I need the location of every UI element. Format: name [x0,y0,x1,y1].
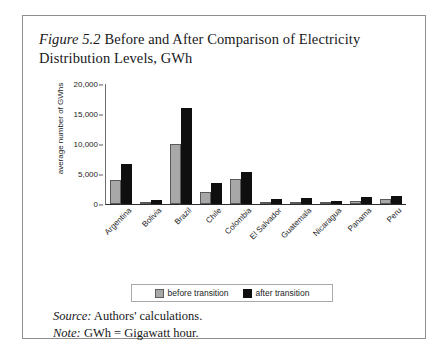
source-text: Authors' calculations. [91,309,202,323]
x-axis-tick-label: Guatemala [279,206,313,240]
source-label: Source: [53,309,91,323]
x-axis-tick-label: Nicaragua [311,206,343,238]
x-axis-tick-label: Peru [385,206,403,224]
x-axis-tick-label: Bolivia [140,206,163,229]
x-axis-tick-label: Colombia [223,206,253,236]
bar-before-transition [350,201,361,204]
x-axis-tick-label: Chile [204,206,223,225]
x-axis-tick-label: Brazil [173,206,194,227]
chart-area: average number of GWhs 20,00015,00010,00… [37,84,413,234]
bar-group [346,84,376,204]
figure-title: Figure 5.2 Before and After Comparison o… [39,30,399,67]
y-axis-tick: 20,000 [74,80,98,89]
source-note: Source: Authors' calculations. [53,308,202,325]
bar-before-transition [320,202,331,204]
note-text: GWh = Gigawatt hour. [81,326,199,340]
bar-after-transition [271,199,282,204]
bar-groups [106,84,406,204]
legend-item-before: before transition [155,288,229,298]
x-axis-tick-labels: ArgentinaBoliviaBrazilChileColombiaEl Sa… [105,206,405,256]
bar-after-transition [301,198,312,204]
bar-group [286,84,316,204]
legend-swatch-before-icon [155,289,164,298]
bar-before-transition [170,144,181,204]
bar-group [166,84,196,204]
bar-group [196,84,226,204]
figure-box: Figure 5.2 Before and After Comparison o… [22,15,426,339]
bar-before-transition [290,202,301,204]
bar-after-transition [181,108,192,204]
chart-legend: before transition after transition [131,284,333,302]
bar-before-transition [110,180,121,204]
bar-after-transition [391,196,402,204]
bar-group [136,84,166,204]
x-axis-tick-label: Panama [346,206,373,233]
bar-after-transition [151,200,162,204]
legend-swatch-after-icon [243,289,252,298]
legend-label-after: after transition [256,288,310,298]
plot-area [105,84,406,205]
bar-after-transition [361,197,372,204]
figure-notes: Source: Authors' calculations. Note: GWh… [53,308,202,342]
y-axis-tick: 0 [94,200,98,209]
bar-after-transition [211,183,222,204]
figure-number: Figure 5.2 [39,31,101,47]
definition-note: Note: GWh = Gigawatt hour. [53,325,202,342]
note-label: Note: [53,326,81,340]
x-axis-tick-label: Argentina [103,206,134,237]
y-axis-tick: 10,000 [74,140,98,149]
bar-after-transition [121,164,132,204]
bar-after-transition [241,172,252,204]
bar-group [376,84,406,204]
y-axis-tick: 5,000 [78,170,98,179]
y-axis-tick: 15,000 [74,110,98,119]
bar-before-transition [230,179,241,204]
bar-before-transition [200,192,211,204]
legend-label-before: before transition [168,288,229,298]
y-axis-tick-labels: 20,00015,00010,0005,0000 [61,84,103,204]
legend-item-after: after transition [243,288,310,298]
bar-group [106,84,136,204]
bar-group [316,84,346,204]
bar-before-transition [140,202,151,204]
bar-group [226,84,256,204]
bar-after-transition [331,201,342,204]
bar-before-transition [260,202,271,204]
bar-before-transition [380,199,391,204]
bar-group [256,84,286,204]
